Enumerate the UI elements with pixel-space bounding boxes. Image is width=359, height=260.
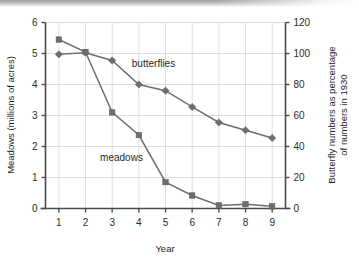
right-axis-tick-labels: 020406080100120 <box>294 17 311 214</box>
data-point-meadows <box>56 37 61 42</box>
data-point-meadows <box>163 179 168 184</box>
right-tick-label: 40 <box>294 141 306 152</box>
left-tick-label: 2 <box>32 141 38 152</box>
x-tick-label: 8 <box>243 217 249 228</box>
x-tick-label: 3 <box>109 217 115 228</box>
data-point-meadows <box>109 110 114 115</box>
annotation-butterflies: butterflies <box>132 58 175 69</box>
left-tick-label: 5 <box>32 48 38 59</box>
dual-axis-line-chart: 0123456 020406080100120 123456789 butter… <box>0 0 359 260</box>
left-tick-label: 1 <box>32 172 38 183</box>
y2-axis-title-line1: Butterfly numbers as percentage <box>326 46 337 183</box>
data-point-meadows <box>269 204 274 209</box>
x-tick-label: 4 <box>136 217 142 228</box>
left-axis-tick-labels: 0123456 <box>32 17 38 214</box>
right-tick-label: 80 <box>294 79 306 90</box>
data-point-butterflies <box>242 127 249 134</box>
x-axis-title: Year <box>155 243 174 254</box>
right-tick-label: 120 <box>294 17 311 28</box>
x-tick-label: 5 <box>163 217 169 228</box>
y-axis-title: Meadows (millions of acres) <box>5 56 16 174</box>
data-point-meadows <box>216 203 221 208</box>
right-tick-label: 20 <box>294 172 306 183</box>
chart-figure: 0123456 020406080100120 123456789 butter… <box>0 0 359 260</box>
right-tick-label: 100 <box>294 48 311 59</box>
right-tick-label: 0 <box>294 203 300 214</box>
x-axis-tick-labels: 123456789 <box>56 217 275 228</box>
data-point-meadows <box>136 132 141 137</box>
data-point-meadows <box>189 193 194 198</box>
annotation-meadows: meadows <box>100 152 143 163</box>
data-point-butterflies <box>55 51 62 58</box>
left-tick-label: 6 <box>32 17 38 28</box>
right-tick-label: 60 <box>294 110 306 121</box>
left-tick-label: 0 <box>32 203 38 214</box>
y2-axis-title-line2: of numbers in 1930 <box>338 74 349 155</box>
data-point-butterflies <box>269 134 276 141</box>
data-point-butterflies <box>215 119 222 126</box>
data-point-butterflies <box>162 87 169 94</box>
x-tick-label: 9 <box>269 217 275 228</box>
x-tick-label: 7 <box>216 217 222 228</box>
left-tick-label: 4 <box>32 79 38 90</box>
left-tick-label: 3 <box>32 110 38 121</box>
data-point-butterflies <box>189 103 196 110</box>
x-tick-label: 6 <box>189 217 195 228</box>
x-tick-label: 2 <box>83 217 89 228</box>
x-tick-label: 1 <box>56 217 62 228</box>
data-point-meadows <box>243 201 248 206</box>
